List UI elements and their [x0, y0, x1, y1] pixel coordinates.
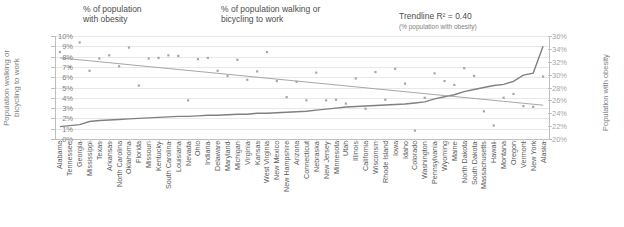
legend-item-obesity: % of population with obesity	[78, 5, 142, 24]
x-axis-label: Texas	[95, 141, 105, 225]
y-axis-right-tick	[548, 113, 552, 114]
x-axis-label: Hawaii	[489, 141, 499, 225]
x-axis-label: Georgia	[75, 141, 85, 225]
y-axis-left-tick-label: 2%	[45, 114, 73, 123]
x-axis-label: Arizona	[292, 141, 302, 225]
x-axis-tick	[70, 139, 71, 142]
x-axis-tick	[287, 139, 288, 142]
y-axis-left-tick	[51, 46, 55, 47]
x-axis-tick	[257, 139, 258, 142]
y-axis-left-tick	[51, 98, 55, 99]
x-axis-tick	[159, 139, 160, 142]
x-axis-label: Alabama	[55, 141, 65, 225]
scatter-point	[157, 57, 159, 59]
x-axis-tick	[543, 139, 544, 142]
x-axis-tick	[60, 139, 61, 142]
x-axis-tick	[336, 139, 337, 142]
legend-sublabel-trendline: (% population with obesity)	[399, 23, 477, 31]
x-axis-label: Indiana	[203, 141, 213, 225]
scatter-point	[236, 59, 238, 61]
legend-item-walking: % of population walking or bicycling to …	[216, 5, 320, 24]
x-axis-label: Oklahoma	[124, 141, 134, 225]
y-axis-left-tick	[51, 57, 55, 58]
x-axis-label: New Jersey	[322, 141, 332, 225]
x-axis-tick	[533, 139, 534, 142]
x-axis-tick	[504, 139, 505, 142]
x-axis-label: Mississippi	[85, 141, 95, 225]
y-axis-left-tick-label: 6%	[45, 73, 73, 82]
x-axis-label: South Carolina	[164, 141, 174, 225]
x-axis-label: Idaho	[401, 141, 411, 225]
y-axis-left-title: Population walking or bicycling to work	[2, 34, 20, 142]
x-axis-tick	[149, 139, 150, 142]
scatter-point	[226, 75, 228, 77]
scatter-point	[355, 77, 357, 79]
x-axis-label: Missouri	[144, 141, 154, 225]
x-axis-tick	[129, 139, 130, 142]
x-axis-tick	[109, 139, 110, 142]
scatter-point	[177, 55, 179, 57]
y-axis-right-tick-label: 34%	[552, 45, 578, 54]
y-axis-right-tick	[548, 100, 552, 101]
scatter-point	[187, 99, 189, 101]
x-axis-tick	[119, 139, 120, 142]
x-axis-tick	[474, 139, 475, 142]
x-axis-label: Washington	[420, 141, 430, 225]
x-axis-tick	[237, 139, 238, 142]
x-axis-label: Vermont	[519, 141, 529, 225]
x-axis-label: Connecticut	[302, 141, 312, 225]
x-axis-tick	[366, 139, 367, 142]
scatter-point	[88, 70, 90, 72]
y-axis-left-tick-label: 1%	[45, 125, 73, 134]
y-axis-right-tick	[548, 139, 552, 140]
scatter-point	[246, 79, 248, 81]
y-axis-left-tick-label: 7%	[45, 63, 73, 72]
y-axis-right-tick	[548, 36, 552, 37]
x-axis-label: South Dakota	[470, 141, 480, 225]
x-axis-label: Michigan	[233, 141, 243, 225]
scatter-point	[374, 71, 376, 73]
chart-legend: % of population with obesity % of popula…	[0, 2, 624, 30]
y-axis-left-tick-label: 5%	[45, 84, 73, 93]
x-axis-tick	[247, 139, 248, 142]
y-axis-left-tick-label: 10%	[45, 32, 73, 41]
scatter-point	[79, 41, 81, 43]
x-axis-label: Illinois	[351, 141, 361, 225]
scatter-point	[207, 57, 209, 59]
scatter-point	[453, 84, 455, 86]
scatter-point	[394, 68, 396, 70]
x-axis-tick	[277, 139, 278, 142]
walking-line-path	[60, 46, 543, 126]
scatter-point	[434, 72, 436, 74]
x-axis-label: New York	[529, 141, 539, 225]
scatter-point	[335, 99, 337, 101]
chart-root: % of population with obesity % of popula…	[0, 0, 624, 227]
scatter-point	[118, 65, 120, 67]
y-axis-right-tick-label: 24%	[552, 109, 578, 118]
legend-label-obesity: % of population with obesity	[83, 5, 142, 24]
x-axis-tick	[523, 139, 524, 142]
x-axis-label: Montana	[499, 141, 509, 225]
x-axis-label: Florida	[134, 141, 144, 225]
trendline-path	[60, 58, 543, 105]
x-axis-label: New Mexico	[272, 141, 282, 225]
scatter-point	[98, 57, 100, 59]
x-axis-label: Nevada	[184, 141, 194, 225]
scatter-point	[463, 67, 465, 69]
x-axis-tick	[139, 139, 140, 142]
x-axis-tick	[178, 139, 179, 142]
y-axis-right-tick	[548, 88, 552, 89]
scatter-point	[345, 102, 347, 104]
x-axis-label: Wisconsin	[371, 141, 381, 225]
x-axis-tick	[395, 139, 396, 142]
y-axis-left-tick-label: 8%	[45, 53, 73, 62]
x-axis-label: North Dakota	[460, 141, 470, 225]
scatter-point	[197, 58, 199, 60]
x-axis-label: Louisiana	[174, 141, 184, 225]
y-axis-right-tick-label: 26%	[552, 96, 578, 105]
x-axis-tick	[208, 139, 209, 142]
scatter-point	[286, 96, 288, 98]
y-axis-right-tick	[548, 75, 552, 76]
y-axis-right-tick-label: 32%	[552, 58, 578, 67]
x-axis-label: Minnesota	[332, 141, 342, 225]
